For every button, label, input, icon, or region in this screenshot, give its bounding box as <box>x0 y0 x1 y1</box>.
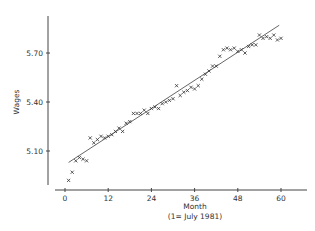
data-point-x-marker <box>229 48 232 51</box>
data-point-x-marker <box>193 87 196 90</box>
data-point-x-marker <box>67 179 70 182</box>
data-point-x-marker <box>121 130 124 133</box>
data-point-x-marker <box>150 107 153 110</box>
data-point-x-marker <box>279 37 282 40</box>
data-point-x-marker <box>211 64 214 67</box>
data-point-x-marker <box>240 48 243 51</box>
data-point-x-marker <box>222 48 225 51</box>
data-point-x-marker <box>74 159 77 162</box>
data-point-x-marker <box>171 97 174 100</box>
y-tick-label: 5.40 <box>26 98 43 107</box>
data-point-x-marker <box>276 38 279 41</box>
data-point-x-marker <box>85 159 88 162</box>
data-point-x-marker <box>143 109 146 112</box>
y-ticks: 5.105.405.70 <box>26 49 50 156</box>
data-point-x-marker <box>272 33 275 36</box>
data-point-x-marker <box>164 100 167 103</box>
data-point-x-marker <box>182 91 185 94</box>
data-point-x-marker <box>225 47 228 50</box>
data-point-x-marker <box>243 51 246 54</box>
data-point-x-marker <box>197 84 200 87</box>
data-point-x-marker <box>189 86 192 89</box>
data-point-x-marker <box>179 94 182 97</box>
data-point-x-marker <box>99 135 102 138</box>
data-point-x-marker <box>254 43 257 46</box>
x-tick-label: 0 <box>63 194 68 203</box>
data-point-x-marker <box>157 107 160 110</box>
axes <box>48 16 307 190</box>
data-point-x-marker <box>168 99 171 102</box>
data-point-x-marker <box>81 158 84 161</box>
y-axis-label: Wages <box>12 90 21 115</box>
data-point-x-marker <box>218 55 221 58</box>
x-tick-label: 48 <box>233 194 243 203</box>
data-points <box>67 33 283 182</box>
data-point-x-marker <box>92 141 95 144</box>
data-point-x-marker <box>139 112 142 115</box>
data-point-x-marker <box>200 78 203 81</box>
data-point-x-marker <box>207 69 210 72</box>
data-point-x-marker <box>269 37 272 40</box>
data-point-x-marker <box>251 43 254 46</box>
data-point-x-marker <box>132 112 135 115</box>
y-tick-label: 5.10 <box>26 147 43 156</box>
data-point-x-marker <box>186 89 189 92</box>
data-point-x-marker <box>233 47 236 50</box>
x-tick-label: 60 <box>276 194 286 203</box>
scatter-chart: 01224364860 5.105.405.70 Month (1= July … <box>0 0 315 231</box>
data-point-x-marker <box>89 136 92 139</box>
x-axis-label: Month <box>183 202 207 211</box>
data-point-x-marker <box>261 37 264 40</box>
data-point-x-marker <box>135 112 138 115</box>
data-point-x-marker <box>71 171 74 174</box>
data-point-x-marker <box>258 33 261 36</box>
x-axis-sublabel: (1= July 1981) <box>168 212 222 221</box>
data-point-x-marker <box>265 35 268 38</box>
data-point-x-marker <box>125 122 128 125</box>
data-point-x-marker <box>96 138 99 141</box>
data-point-x-marker <box>146 112 149 115</box>
data-point-x-marker <box>175 84 178 87</box>
y-tick-label: 5.70 <box>26 49 43 58</box>
data-point-x-marker <box>161 102 164 105</box>
data-point-x-marker <box>78 156 81 159</box>
x-tick-label: 24 <box>147 194 157 203</box>
x-tick-label: 12 <box>103 194 113 203</box>
